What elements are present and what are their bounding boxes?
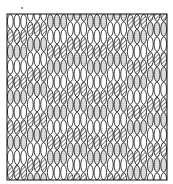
ellipse-cell	[161, 173, 167, 184]
ellipse-cell	[7, 60, 13, 74]
ellipse-cell	[87, 75, 93, 89]
ellipse-cell	[94, 29, 100, 43]
ellipse-cell	[154, 173, 160, 184]
ellipse-cell	[47, 135, 53, 149]
ellipse-cell	[101, 150, 107, 164]
ellipse-cell	[27, 127, 33, 141]
ellipse-cell	[41, 173, 47, 184]
ellipse-cell	[87, 180, 93, 184]
ellipse-cell	[21, 60, 27, 74]
ellipse-cell	[41, 22, 47, 36]
ellipse-cell	[147, 52, 153, 66]
ellipse-cell	[47, 150, 53, 164]
ellipse-cell	[127, 120, 133, 134]
ellipse-cell	[141, 150, 147, 164]
ellipse-cell	[81, 82, 87, 96]
ellipse-cell	[61, 29, 67, 43]
ellipse-cell	[21, 44, 27, 58]
ellipse-cell	[141, 75, 147, 89]
ellipse-cell	[14, 0, 20, 14]
ellipse-cell	[27, 143, 33, 157]
ellipse-cell	[61, 180, 67, 184]
ellipse-cell	[147, 82, 153, 96]
ellipse-cell	[81, 143, 87, 157]
ellipse-cell	[107, 158, 113, 172]
ellipse-cell	[87, 14, 93, 28]
ellipse-cell	[81, 112, 87, 126]
ellipse-cell	[74, 143, 80, 157]
ellipse-cell	[87, 135, 93, 149]
ellipse-cell	[47, 29, 53, 43]
ellipse-cell	[141, 0, 147, 14]
ellipse-cell	[61, 90, 67, 104]
ellipse-cell	[7, 14, 13, 28]
ellipse-cell	[154, 82, 160, 96]
ellipse-cell	[141, 14, 147, 28]
ellipse-cell	[107, 67, 113, 81]
ellipse-cell	[7, 75, 13, 89]
ellipse-cell	[81, 67, 87, 81]
ellipse-cell	[74, 67, 80, 81]
ellipse-cell	[47, 75, 53, 89]
ellipse-cell	[27, 67, 33, 81]
ellipse-cell	[121, 127, 127, 141]
ellipse-cell	[7, 165, 13, 179]
ellipse-cell	[7, 0, 13, 14]
ellipse-cell	[41, 52, 47, 66]
ellipse-cell	[107, 112, 113, 126]
ellipse-cell	[154, 22, 160, 36]
ellipse-cell	[154, 97, 160, 111]
ellipse-cell	[161, 22, 167, 36]
ellipse-cell	[7, 180, 13, 184]
ellipse-cell	[47, 180, 53, 184]
ellipse-cell	[134, 60, 140, 74]
ellipse-cell	[134, 180, 140, 184]
ellipse-cell	[34, 158, 40, 172]
ellipse-cell	[121, 97, 127, 111]
ellipse-cell	[147, 97, 153, 111]
ellipse-cell	[101, 180, 107, 184]
ellipse-cell	[154, 52, 160, 66]
ellipse-cell	[14, 44, 20, 58]
ellipse-cell	[34, 143, 40, 157]
ellipse-cell	[67, 127, 73, 141]
ellipse-cell	[41, 97, 47, 111]
ellipse-cell	[107, 143, 113, 157]
ellipse-cell	[54, 150, 60, 164]
ellipse-cell	[94, 60, 100, 74]
ellipse-cell	[14, 105, 20, 119]
ellipse-cell	[114, 112, 120, 126]
ellipse-cell	[134, 120, 140, 134]
ellipse-cell	[114, 22, 120, 36]
ellipse-cell	[67, 52, 73, 66]
ellipse-cell	[87, 60, 93, 74]
ellipse-cell	[61, 0, 67, 14]
ellipse-cell	[14, 60, 20, 74]
ellipse-cell	[27, 82, 33, 96]
ellipse-cell	[161, 82, 167, 96]
ellipse-cell	[14, 135, 20, 149]
ellipse-cell	[67, 22, 73, 36]
ellipse-cell	[114, 127, 120, 141]
ellipse-cell	[81, 37, 87, 51]
ellipse-cell	[41, 82, 47, 96]
ellipse-cell	[101, 90, 107, 104]
ellipse-cell	[61, 135, 67, 149]
ellipse-cell	[47, 105, 53, 119]
ellipse-cell	[127, 105, 133, 119]
ellipse-cell	[127, 14, 133, 28]
ellipse-cell	[127, 135, 133, 149]
ellipse-cell	[7, 105, 13, 119]
ellipse-cell	[81, 173, 87, 184]
ellipse-cell	[67, 37, 73, 51]
ellipse-cell	[114, 143, 120, 157]
ellipse-cell	[67, 67, 73, 81]
ellipse-cell	[54, 135, 60, 149]
ellipse-cell	[54, 180, 60, 184]
ellipse-cell	[74, 127, 80, 141]
ellipse-cell	[87, 29, 93, 43]
ellipse-cell	[87, 90, 93, 104]
ellipse-cell	[74, 37, 80, 51]
ellipse-cell	[87, 120, 93, 134]
ellipse-cell	[34, 52, 40, 66]
